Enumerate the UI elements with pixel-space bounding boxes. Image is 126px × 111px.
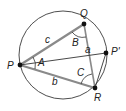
label-r: R (94, 92, 101, 103)
label-side-b: b (52, 76, 58, 87)
triangle-circle-diagram: P Q R P' c a b A B C (0, 0, 126, 111)
label-side-c: c (45, 34, 50, 45)
label-side-a: a (85, 44, 91, 55)
vertex-p (18, 63, 23, 68)
label-angle-c: C (77, 67, 85, 78)
label-angle-b: B (72, 37, 79, 48)
vertex-r (93, 86, 98, 91)
label-q: Q (80, 8, 88, 19)
diameter-pp (20, 53, 106, 65)
label-p: P (7, 60, 14, 71)
vertex-q (82, 22, 87, 27)
label-angle-a: A (37, 57, 45, 68)
label-p-prime: P' (111, 46, 121, 57)
vertex-p-prime (104, 51, 109, 56)
